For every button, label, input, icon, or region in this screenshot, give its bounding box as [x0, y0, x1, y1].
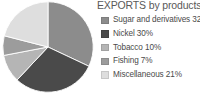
legend-item: Nickel 30% [101, 27, 200, 41]
legend-item: Miscellaneous 21% [101, 68, 200, 82]
legend-item-label: Miscellaneous 21% [113, 71, 182, 79]
chart-legend-block: EXPORTS by products Sugar and derivative… [96, 0, 200, 93]
legend-item-label: Nickel 30% [113, 30, 153, 38]
legend-item: Sugar and derivatives 32% [101, 14, 200, 28]
legend-color-swatch-icon [101, 44, 109, 52]
legend-item-label: Fishing 7% [113, 57, 153, 65]
exports-pie-chart-figure: EXPORTS by products Sugar and derivative… [0, 0, 200, 93]
legend-color-swatch-icon [101, 58, 109, 66]
legend-item: Fishing 7% [101, 55, 200, 69]
legend-item-label: Sugar and derivatives 32% [113, 16, 200, 24]
pie-chart-svg [2, 1, 94, 93]
legend-color-swatch-icon [101, 30, 109, 38]
pie-chart-graphic [2, 1, 94, 93]
pie-slice-group [3, 2, 93, 92]
legend-list: Sugar and derivatives 32%Nickel 30%Tobac… [101, 14, 200, 82]
legend-item-label: Tobacco 10% [113, 44, 161, 52]
legend-item: Tobacco 10% [101, 41, 200, 55]
chart-title: EXPORTS by products [97, 0, 200, 11]
legend-color-swatch-icon [101, 17, 109, 25]
legend-color-swatch-icon [101, 71, 109, 79]
